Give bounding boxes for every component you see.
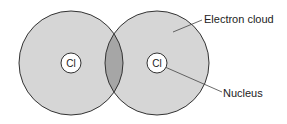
- diagram-canvas: Cl Cl Electron cloud Nucleus: [0, 0, 287, 124]
- atom-symbol-left: Cl: [66, 58, 75, 69]
- electron-cloud-label: Electron cloud: [204, 13, 274, 25]
- atom-symbol-right: Cl: [152, 58, 161, 69]
- nucleus-label: Nucleus: [223, 87, 263, 99]
- covalent-bond-diagram: Cl Cl Electron cloud Nucleus: [0, 0, 287, 124]
